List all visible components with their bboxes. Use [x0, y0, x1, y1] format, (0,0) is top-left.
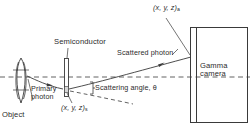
label-gamma-camera: Gamma camera: [200, 62, 228, 78]
label-scattering-angle: Scattering angle, θ: [95, 84, 157, 92]
leader-line-scatter: [67, 93, 72, 103]
label-semiconductor: Semiconductor: [54, 38, 106, 46]
semiconductor-group: [65, 59, 69, 97]
semiconductor-interaction-point: [65, 87, 69, 93]
label-gamma-camera-line2: camera: [200, 70, 228, 78]
leader-line-semiconductor: [67, 48, 68, 58]
label-coord-scatter-subscript: s: [85, 106, 88, 112]
label-coord-absorption-subscript: a: [177, 6, 180, 12]
label-primary-photon-line2: photon: [31, 93, 56, 101]
compton-camera-diagram: Semiconductor Scattered photon Gamma cam…: [0, 0, 250, 129]
label-coord-scatter-text: (x, y, z): [61, 103, 85, 112]
object-group: [13, 58, 29, 103]
label-object: Object: [2, 111, 25, 119]
object-ellipse: [17, 58, 25, 103]
label-primary-photon: Primary photon: [31, 85, 56, 100]
label-coord-absorption-text: (x, y, z): [153, 3, 177, 12]
label-coord-scatter: (x, y, z)s: [61, 104, 88, 112]
label-scattered-photon: Scattered photon: [117, 49, 173, 57]
label-coord-absorption: (x, y, z)a: [153, 4, 180, 12]
